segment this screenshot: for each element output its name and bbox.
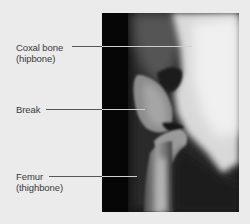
label-break-name: Break xyxy=(16,104,40,115)
xray-illustration xyxy=(102,13,239,212)
label-femur: Femur (thighbone) xyxy=(16,171,63,193)
leader-line-break-on-image xyxy=(102,109,145,110)
label-coxal-bone-common-name: (hipbone) xyxy=(16,53,63,64)
leader-line-coxal-bone-on-image xyxy=(102,46,192,47)
leader-line-break xyxy=(46,109,102,110)
leader-line-coxal-bone xyxy=(72,46,102,47)
hip-xray-image xyxy=(102,13,239,212)
label-femur-common-name: (thighbone) xyxy=(16,182,63,193)
hip-fracture-figure: Coxal bone (hipbone) Break Femur (thighb… xyxy=(0,0,250,224)
label-break: Break xyxy=(16,104,40,115)
leader-line-femur xyxy=(49,176,102,177)
label-coxal-bone: Coxal bone (hipbone) xyxy=(16,42,63,64)
leader-line-femur-on-image xyxy=(102,176,137,177)
label-coxal-bone-name: Coxal bone xyxy=(16,42,63,53)
